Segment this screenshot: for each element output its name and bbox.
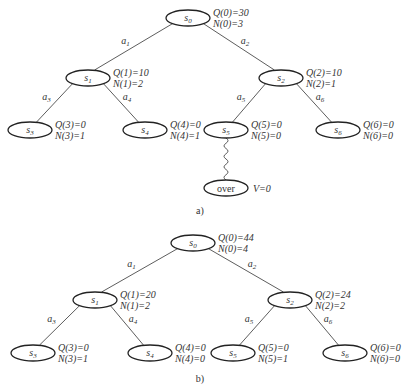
node-over-label: over bbox=[217, 183, 235, 194]
node-s6-n-visits: N(6)=0 bbox=[369, 353, 400, 365]
edge-s0-s1 bbox=[95, 24, 173, 70]
node-s4-n-visits: N(4)=0 bbox=[174, 353, 205, 365]
action-label-a4: a4 bbox=[123, 91, 132, 104]
action-label-a2: a2 bbox=[248, 258, 257, 271]
node-s2-n-visits: N(2)=2 bbox=[314, 300, 345, 312]
caption-b: b) bbox=[196, 373, 204, 385]
edge-s0-s2 bbox=[208, 249, 283, 292]
node-s4-n-visits: N(4)=1 bbox=[169, 130, 200, 142]
node-s2-n-visits: N(2)=1 bbox=[305, 78, 336, 90]
action-label-a2: a2 bbox=[241, 35, 250, 48]
caption-a: a) bbox=[196, 205, 204, 217]
node-s0-n-visits: N(0)=3 bbox=[212, 18, 243, 30]
action-label-a3: a3 bbox=[42, 91, 51, 104]
action-label-a6: a6 bbox=[324, 313, 333, 326]
edge-s2-s5 bbox=[240, 306, 275, 345]
action-label-a5: a5 bbox=[237, 91, 246, 104]
edge-s2-s6 bbox=[305, 306, 338, 345]
edge-s1-s4 bbox=[110, 306, 143, 345]
edge-s2-s5 bbox=[233, 84, 266, 122]
mcts-diagram: a1a2a3a4a5a6overV=0s0Q(0)=30N(0)=3s1Q(1)… bbox=[0, 0, 407, 389]
node-s3-n-visits: N(3)=1 bbox=[57, 353, 88, 365]
node-s6-n-visits: N(6)=0 bbox=[362, 130, 393, 142]
edge-s1-s3 bbox=[40, 306, 80, 345]
node-s3-n-visits: N(3)=1 bbox=[54, 130, 85, 142]
node-s1-n-visits: N(1)=2 bbox=[112, 78, 143, 90]
action-label-a3: a3 bbox=[47, 313, 56, 326]
action-label-a4: a4 bbox=[129, 313, 138, 326]
diagram-a: a1a2a3a4a5a6overV=0s0Q(0)=30N(0)=3s1Q(1)… bbox=[8, 7, 394, 196]
edge-s1-s3 bbox=[37, 84, 73, 122]
rollout-squiggle bbox=[224, 138, 228, 180]
action-label-a1: a1 bbox=[121, 35, 130, 48]
edge-s1-s4 bbox=[103, 84, 138, 122]
action-label-a5: a5 bbox=[245, 313, 254, 326]
node-s0-n-visits: N(0)=4 bbox=[217, 243, 248, 255]
edge-s2-s6 bbox=[296, 84, 331, 122]
action-label-a6: a6 bbox=[316, 91, 325, 104]
node-s5-n-visits: N(5)=0 bbox=[250, 130, 281, 142]
edge-s0-s1 bbox=[102, 249, 178, 292]
node-s5-n-visits: N(5)=1 bbox=[257, 353, 288, 365]
node-s1-n-visits: N(1)=2 bbox=[119, 300, 150, 312]
rollout-value: V=0 bbox=[253, 183, 271, 194]
edge-s0-s2 bbox=[203, 24, 274, 70]
diagram-b: a1a2a3a4a5a6s0Q(0)=44N(0)=4s1Q(1)=20N(1)… bbox=[11, 232, 401, 365]
action-label-a1: a1 bbox=[127, 258, 136, 271]
